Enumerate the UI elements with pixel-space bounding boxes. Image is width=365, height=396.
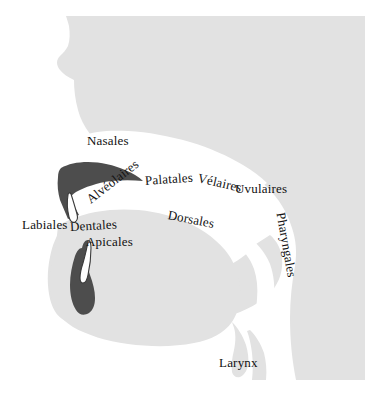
label-larynx[interactable]: Larynx [219, 356, 258, 369]
label-nasales[interactable]: Nasales [87, 134, 129, 147]
vocal-tract-diagram: Nasales Alvéolaires Palatales Vélaires U… [0, 0, 365, 396]
label-apicales[interactable]: Apicales [86, 235, 133, 248]
label-palatales[interactable]: Palatales [145, 170, 194, 186]
vocal-tract-illustration [0, 0, 365, 396]
label-labiales[interactable]: Labiales [22, 218, 68, 231]
label-dentales[interactable]: Dentales [70, 217, 118, 232]
label-uvulaires[interactable]: Uvulaires [235, 182, 287, 195]
